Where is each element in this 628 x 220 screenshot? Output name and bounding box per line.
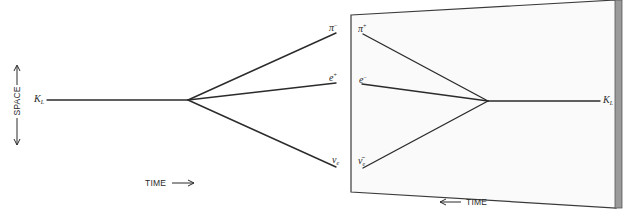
space-axis-label: SPACE xyxy=(12,86,22,115)
pi-minus-track xyxy=(188,33,336,100)
time-reverse-label: TIME xyxy=(466,197,487,207)
superscript: − xyxy=(334,22,337,28)
left-decay-lines xyxy=(47,33,336,167)
e-plus-label: e+ xyxy=(329,70,337,83)
time-reverse-arrow-icon xyxy=(440,199,461,205)
subscript: L xyxy=(41,99,44,105)
kl-final-label: KL xyxy=(603,95,613,108)
time-forward-arrow-icon xyxy=(172,180,194,186)
e-plus-track xyxy=(188,83,336,100)
e-minus-label: e− xyxy=(359,72,367,85)
superscript: + xyxy=(333,72,336,78)
kaon-decay-diagram: SPACE TIME TIME KL π− e+ νe π+ e− ν̄e KL xyxy=(0,0,628,220)
pi-minus-label: π− xyxy=(329,20,337,33)
kl-initial-label: KL xyxy=(34,94,44,107)
panel-edge-thickness xyxy=(615,0,622,208)
nu-e-track xyxy=(188,100,336,167)
superscript: − xyxy=(363,74,366,80)
pi-plus-label: π+ xyxy=(358,21,366,34)
subscript: e xyxy=(362,161,365,167)
symbol: K xyxy=(603,94,610,105)
nu-e-label: νe xyxy=(332,155,339,168)
superscript: + xyxy=(363,23,366,29)
subscript: e xyxy=(336,160,339,166)
subscript: L xyxy=(610,100,613,106)
nu-e-bar-label: ν̄e xyxy=(358,156,365,169)
time-forward-label: TIME xyxy=(145,178,166,188)
diagram-lines xyxy=(0,0,628,220)
symbol: K xyxy=(34,93,41,104)
